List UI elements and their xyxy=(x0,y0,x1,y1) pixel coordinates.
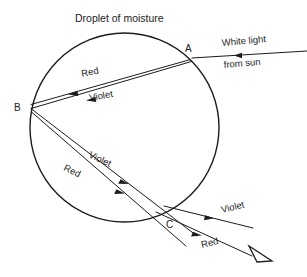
point-label-a: A xyxy=(185,43,192,54)
observer-eye-icon xyxy=(249,246,272,262)
red-label-lower: Red xyxy=(62,162,82,179)
violet-label-lower: Violet xyxy=(87,149,113,169)
white-light-label-line1: White light xyxy=(221,33,266,48)
point-label-b: B xyxy=(14,102,21,113)
violet-label-exit: Violet xyxy=(220,198,246,214)
red-label-upper: Red xyxy=(80,65,99,79)
red-label-exit: Red xyxy=(200,235,220,250)
red-ray-b-to-c xyxy=(32,112,187,246)
point-label-c: C xyxy=(166,219,173,230)
figure-title: Droplet of moisture xyxy=(75,12,164,24)
figure-canvas: Droplet of moisture A B C White light fr… xyxy=(0,0,307,277)
violet-ray-a-to-b xyxy=(31,62,192,109)
violet-ray-b-to-c xyxy=(32,109,198,236)
white-light-label-line2: from sun xyxy=(223,56,261,70)
ray-diagram-svg: Droplet of moisture A B C White light fr… xyxy=(0,0,307,277)
